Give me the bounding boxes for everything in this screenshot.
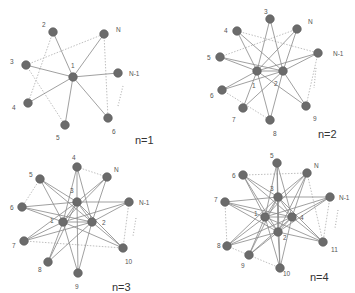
edge-2-10 xyxy=(92,222,123,248)
node-label-3: 3 xyxy=(270,185,274,192)
dotted-edge-3-5 xyxy=(26,65,65,125)
node-label-10: 10 xyxy=(283,270,291,277)
node-1 xyxy=(261,213,270,222)
node-label-11: 11 xyxy=(331,246,338,253)
node-label-3: 3 xyxy=(10,58,14,65)
edge-4-5 xyxy=(277,163,292,217)
node-8 xyxy=(223,242,232,251)
edge-1-N-1 xyxy=(73,73,118,77)
node-label-6: 6 xyxy=(10,204,14,211)
node-label-1: 1 xyxy=(50,217,54,224)
edge-3-6 xyxy=(22,202,77,207)
panel-caption: n=4 xyxy=(310,271,329,283)
panel-caption: n=2 xyxy=(318,128,337,140)
node-3 xyxy=(73,198,82,207)
ellipsis-dots xyxy=(118,86,123,106)
node-label-2: 2 xyxy=(274,80,278,87)
node-labels: 123456789N-1N xyxy=(207,8,344,137)
node-N-1 xyxy=(125,198,134,207)
node-2 xyxy=(88,218,97,227)
dotted-edge-N-1-10 xyxy=(123,202,129,248)
node-label-4: 4 xyxy=(224,27,228,34)
panel-caption: n=3 xyxy=(112,281,131,293)
node-label-N: N xyxy=(116,26,121,33)
node-5 xyxy=(36,175,45,184)
node-5 xyxy=(216,53,225,62)
node-2 xyxy=(279,67,288,76)
edge-1-7 xyxy=(243,71,257,108)
edge-2-7 xyxy=(243,71,283,108)
node-label-8: 8 xyxy=(273,130,277,137)
node-N xyxy=(303,169,312,178)
node-label-9: 9 xyxy=(241,262,245,269)
node-9 xyxy=(302,102,311,111)
nodes xyxy=(216,15,323,125)
dotted-edge-N-1-11 xyxy=(323,197,330,242)
edge-1-3 xyxy=(257,19,270,71)
node-6 xyxy=(239,171,248,180)
panel-n1: 123456N-1Nn=1 xyxy=(10,21,154,146)
dotted-edge-5-6 xyxy=(22,179,40,207)
node-label-N-1: N-1 xyxy=(333,50,344,57)
node-label-4: 4 xyxy=(300,214,304,221)
dotted-edge-2-4 xyxy=(28,32,53,103)
node-8 xyxy=(266,116,275,125)
network-diagram: 123456N-1Nn=1 123456789N-1Nn=2 123456789… xyxy=(0,0,355,293)
node-N-1 xyxy=(114,69,123,78)
node-label-N: N xyxy=(308,18,313,25)
node-label-9: 9 xyxy=(313,115,317,122)
node-2 xyxy=(49,28,58,37)
node-6 xyxy=(18,203,27,212)
node-label-6: 6 xyxy=(232,172,236,179)
node-label-2: 2 xyxy=(102,219,106,226)
node-1 xyxy=(253,67,262,76)
node-label-7: 7 xyxy=(232,116,236,123)
node-7 xyxy=(239,104,248,113)
edge-1-6 xyxy=(73,77,108,118)
node-label-4: 4 xyxy=(72,154,76,161)
node-label-5: 5 xyxy=(56,134,60,141)
edge-2-3 xyxy=(270,19,283,71)
dotted-edge-4-N xyxy=(77,167,107,177)
panel-caption: n=1 xyxy=(135,134,154,146)
edge-1-5 xyxy=(65,77,73,125)
edge-1-5 xyxy=(40,179,63,222)
edge-3-9 xyxy=(77,202,78,273)
node-label-10: 10 xyxy=(125,258,133,265)
node-label-6: 6 xyxy=(210,92,214,99)
nodes xyxy=(18,163,134,278)
edge-1-2 xyxy=(53,32,73,77)
panel-n4: 1234567891011N-1Nn=4 xyxy=(214,152,350,283)
edge-1-4 xyxy=(28,77,73,103)
node-9 xyxy=(74,269,83,278)
node-label-2: 2 xyxy=(283,234,287,241)
node-5 xyxy=(61,121,70,130)
node-N xyxy=(100,30,109,39)
node-1 xyxy=(59,218,68,227)
node-4 xyxy=(288,213,297,222)
node-label-8: 8 xyxy=(217,242,221,249)
dotted-edge-N-6 xyxy=(104,34,108,118)
node-label-1: 1 xyxy=(71,62,75,69)
dotted-edge-N-1-9 xyxy=(306,53,318,106)
edge-2-9 xyxy=(283,71,306,106)
dotted-edge-8-10 xyxy=(227,246,280,268)
node-7 xyxy=(221,198,230,207)
node-label-3: 3 xyxy=(70,187,74,194)
node-5 xyxy=(273,159,282,168)
dotted-edge-7-8 xyxy=(225,202,227,246)
dotted-edge-5-N xyxy=(220,29,297,57)
node-3 xyxy=(266,15,275,24)
node-label-2: 2 xyxy=(42,21,46,28)
node-label-5: 5 xyxy=(29,171,33,178)
node-8 xyxy=(44,258,53,267)
node-label-N-1: N-1 xyxy=(339,194,350,201)
node-label-N: N xyxy=(114,166,119,173)
node-N-1 xyxy=(314,49,323,58)
edge-2-8 xyxy=(270,71,283,120)
diagram-canvas: 123456N-1Nn=1 123456789N-1Nn=2 123456789… xyxy=(0,0,355,293)
node-7 xyxy=(20,237,29,246)
node-4 xyxy=(73,163,82,172)
node-N xyxy=(103,173,112,182)
node-label-N-1: N-1 xyxy=(139,199,150,206)
